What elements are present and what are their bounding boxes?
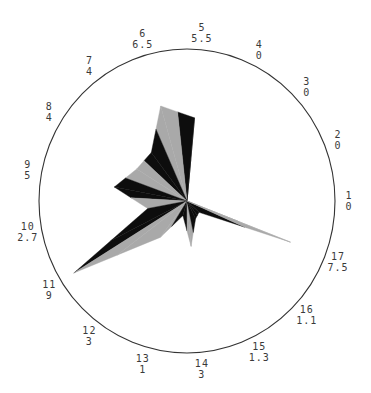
spoke-index: 15 (249, 341, 270, 352)
spoke-label-6: 66.5 (132, 28, 153, 50)
spoke-label-15: 151.3 (249, 341, 270, 363)
spoke-value: 1.1 (296, 315, 317, 326)
spoke-value: 0 (345, 201, 352, 212)
spoke-label-7: 74 (86, 55, 93, 77)
spoke-index: 9 (24, 159, 31, 170)
spoke-label-17: 177.5 (328, 251, 349, 273)
spoke-value: 1 (136, 364, 150, 375)
spoke-label-12: 123 (82, 325, 96, 347)
spoke-value: 2.7 (17, 232, 38, 243)
spoke-value: 5 (24, 170, 31, 181)
spoke-label-4: 40 (256, 39, 263, 61)
spoke-index: 17 (328, 251, 349, 262)
spoke-index: 7 (86, 55, 93, 66)
spoke-index: 16 (296, 304, 317, 315)
spoke-value: 6.5 (132, 39, 153, 50)
spoke-value: 9 (42, 290, 56, 301)
spoke-label-16: 161.1 (296, 304, 317, 326)
spoke-value: 0 (256, 50, 263, 61)
spoke-label-13: 131 (136, 353, 150, 375)
spoke-label-9: 95 (24, 159, 31, 181)
star-chart-canvas (0, 0, 371, 393)
spoke-value: 0 (303, 87, 310, 98)
spoke-label-5: 55.5 (191, 22, 212, 44)
spoke-index: 11 (42, 279, 56, 290)
spoke-label-14: 143 (195, 358, 209, 380)
spoke-value: 0 (335, 140, 342, 151)
spoke-value: 1.3 (249, 352, 270, 363)
star-slices (74, 106, 291, 273)
spoke-index: 3 (303, 76, 310, 87)
spoke-index: 5 (191, 22, 212, 33)
spoke-value: 4 (86, 66, 93, 77)
spoke-index: 8 (46, 101, 53, 112)
slice-11-ccw (74, 201, 187, 273)
spoke-index: 4 (256, 39, 263, 50)
spoke-label-10: 102.7 (17, 221, 38, 243)
spoke-index: 14 (195, 358, 209, 369)
spoke-value: 3 (82, 336, 96, 347)
spoke-label-11: 119 (42, 279, 56, 301)
spoke-index: 2 (335, 129, 342, 140)
star-chart: 1020304055.566.5748495102.71191231311431… (0, 0, 371, 393)
spoke-index: 12 (82, 325, 96, 336)
spoke-index: 10 (17, 221, 38, 232)
spoke-value: 7.5 (328, 262, 349, 273)
slice-17-ccw (187, 201, 291, 242)
spoke-label-3: 30 (303, 76, 310, 98)
spoke-value: 4 (46, 112, 53, 123)
spoke-label-2: 20 (335, 129, 342, 151)
spoke-label-1: 10 (345, 190, 352, 212)
spoke-value: 3 (195, 369, 209, 380)
spoke-index: 1 (345, 190, 352, 201)
spoke-value: 5.5 (191, 33, 212, 44)
spoke-index: 13 (136, 353, 150, 364)
spoke-label-8: 84 (46, 101, 53, 123)
spoke-index: 6 (132, 28, 153, 39)
